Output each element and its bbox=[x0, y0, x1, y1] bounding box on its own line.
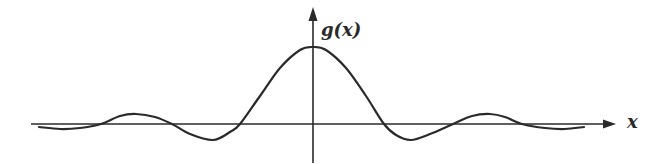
x-axis bbox=[31, 120, 616, 129]
y-axis-arrow-icon bbox=[309, 7, 318, 21]
g-curve bbox=[39, 47, 584, 140]
x-axis-label: x bbox=[627, 113, 638, 131]
x-axis-arrow-icon bbox=[603, 120, 616, 129]
y-axis bbox=[309, 7, 318, 163]
y-axis-label: g(x) bbox=[321, 21, 361, 39]
